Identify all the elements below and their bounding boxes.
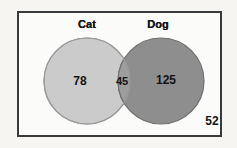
venn-diagram-figure: Cat Dog 78 45 125 52 [0,0,237,148]
venn-plot-area: Cat Dog 78 45 125 52 [0,0,237,148]
venn-value-intersection: 45 [116,75,128,87]
venn-value-cat-only: 78 [73,74,86,88]
venn-set-label-dog: Dog [147,18,169,30]
venn-value-dog-only: 125 [156,73,176,87]
venn-value-outside: 52 [205,114,218,128]
venn-set-label-cat: Cat [78,18,96,30]
venn-circles-graphic [0,0,237,148]
